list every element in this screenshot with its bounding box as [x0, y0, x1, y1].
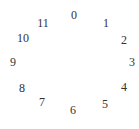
dial-number-2: 2	[121, 34, 127, 46]
clock-number-dial: 0 1 2 3 4 5 6 7 8 9 10 11	[0, 0, 139, 129]
dial-number-4: 4	[121, 81, 127, 93]
dial-number-8: 8	[19, 82, 25, 94]
dial-number-9: 9	[10, 56, 16, 68]
dial-number-5: 5	[102, 98, 108, 110]
dial-number-10: 10	[17, 32, 29, 44]
dial-number-1: 1	[103, 17, 109, 29]
dial-number-6: 6	[70, 104, 76, 116]
dial-number-0: 0	[71, 9, 77, 21]
dial-number-7: 7	[39, 96, 45, 108]
dial-number-3: 3	[129, 56, 135, 68]
dial-number-11: 11	[37, 17, 49, 29]
